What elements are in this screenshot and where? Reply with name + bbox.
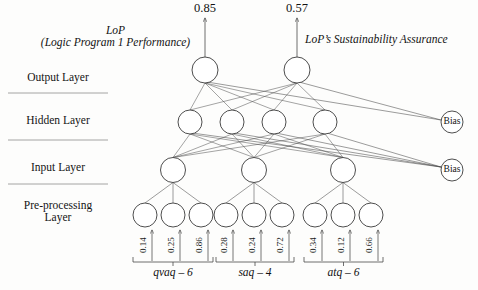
weight-value-2-0: 0.34 <box>308 232 318 258</box>
hidden-node-0 <box>178 110 202 134</box>
lop-subtitle: (Logic Program 1 Performance) <box>28 36 203 48</box>
weight-value-1-2: 0.72 <box>275 232 285 258</box>
input-node-2 <box>331 158 356 183</box>
edge-i1-h0 <box>190 134 254 158</box>
edge-i1-h1 <box>232 134 254 158</box>
preprocessing-node-7 <box>331 203 355 227</box>
edge-i1-h3 <box>254 134 325 158</box>
preprocessing-node-3 <box>214 203 238 227</box>
layer-label-hidden: Hidden Layer <box>8 114 108 126</box>
preprocessing-node-1 <box>161 203 185 227</box>
edge-i2-h3 <box>325 134 343 158</box>
weight-value-1-1: 0.24 <box>247 232 257 258</box>
edge-h1-o0 <box>205 83 232 110</box>
layer-label-preprocessing-line1: Pre-processing <box>8 199 108 211</box>
edge-p3-i1 <box>226 183 254 204</box>
preprocessing-node-2 <box>189 203 213 227</box>
edge-p5-i1 <box>254 183 282 204</box>
edges-input-to-hidden <box>173 134 343 158</box>
layer-label-preprocessing: Pre-processing Layer <box>8 199 108 223</box>
group-label-1: saq – 4 <box>210 266 300 278</box>
bias-node-label-1: Bias <box>432 164 472 174</box>
weight-value-0-1: 0.25 <box>166 232 176 258</box>
edge-h2-o1 <box>274 83 297 110</box>
edge-p2-i0 <box>173 183 201 204</box>
edge-i2-h0 <box>190 134 343 158</box>
weight-value-0-0: 0.14 <box>138 232 148 258</box>
group-label-0: qvaq – 6 <box>128 266 218 278</box>
output-node-1 <box>284 57 310 83</box>
edges-hidden-to-output <box>190 83 325 110</box>
edge-bias1-h0 <box>192 133 441 167</box>
preprocessing-node-5 <box>270 203 294 227</box>
weight-value-2-2: 0.66 <box>364 232 374 258</box>
preprocessing-node-8 <box>359 203 383 227</box>
hidden-node-2 <box>262 110 286 134</box>
output-annotation-right: LoP’s Sustainability Assurance <box>305 33 448 45</box>
input-node-1 <box>242 158 267 183</box>
edge-h3-o1 <box>297 83 325 110</box>
neural-network-diagram: 0.85 0.57 LoP (Logic Program 1 Performan… <box>0 0 478 290</box>
hidden-node-1 <box>220 110 244 134</box>
bias-node-label-0: Bias <box>432 116 472 126</box>
weight-value-0-2: 0.86 <box>194 232 204 258</box>
edge-p6-i2 <box>315 183 343 204</box>
edge-p0-i0 <box>145 183 173 204</box>
output-annotation-left: LoP (Logic Program 1 Performance) <box>28 24 203 48</box>
layer-label-preprocessing-line2: Layer <box>8 211 108 223</box>
group-brackets <box>133 257 383 266</box>
edge-h0-o0 <box>190 83 205 110</box>
output-arrows <box>205 18 297 57</box>
weight-value-1-0: 0.28 <box>219 232 229 258</box>
lop-title: LoP <box>28 24 203 36</box>
preprocessing-node-4 <box>242 203 266 227</box>
preprocessing-node-6 <box>303 203 327 227</box>
edge-h0-o1 <box>190 83 297 110</box>
group-label-2: atq – 6 <box>299 266 389 278</box>
output-value-1: 0.57 <box>272 2 322 15</box>
edge-bias1-h2 <box>276 133 441 167</box>
layer-label-input: Input Layer <box>8 161 108 173</box>
edge-p8-i2 <box>343 183 371 204</box>
output-value-0: 0.85 <box>180 2 230 15</box>
hidden-node-3 <box>313 110 337 134</box>
weight-value-2-1: 0.12 <box>336 232 346 258</box>
input-node-0 <box>161 158 186 183</box>
output-node-0 <box>192 57 218 83</box>
edges-preprocessing-to-input <box>145 183 371 204</box>
edge-h1-o1 <box>232 83 297 110</box>
layer-label-output: Output Layer <box>8 71 108 83</box>
preprocessing-node-0 <box>133 203 157 227</box>
